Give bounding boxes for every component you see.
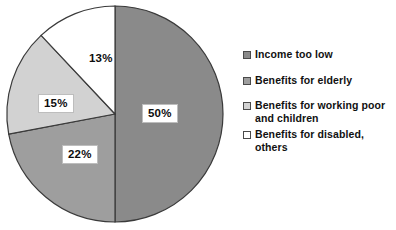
legend-item-label-line2: and children <box>255 112 319 124</box>
pie-svg <box>0 0 232 230</box>
legend-swatch-icon <box>243 77 251 85</box>
legend-item-label: Benefits for elderly <box>255 74 352 87</box>
pie-chart-figure: 50% 22% 15% 13% Income too low Benefits … <box>0 0 396 230</box>
legend-swatch-icon <box>243 51 251 59</box>
legend-swatch-icon <box>243 102 251 110</box>
pie-slice-label-benefits-elderly: 22% <box>62 145 98 164</box>
legend-item-label-line2: others <box>255 141 288 153</box>
pie-slice-label-benefits-working-poor: 15% <box>38 94 74 113</box>
pie-plot-area: 50% 22% 15% 13% <box>0 0 232 230</box>
legend-item-label-line1: Benefits for disabled, <box>255 128 364 140</box>
chart-legend: Income too low Benefits for elderly Bene… <box>243 48 393 157</box>
pie-slice-label-benefits-disabled: 13% <box>85 50 117 67</box>
legend-item-label: Benefits for disabled,others <box>255 128 364 153</box>
legend-item-benefits-disabled[interactable]: Benefits for disabled,others <box>243 128 393 153</box>
legend-swatch-icon <box>243 131 251 139</box>
pie-slice-label-income-too-low: 50% <box>142 104 178 123</box>
legend-item-benefits-elderly[interactable]: Benefits for elderly <box>243 74 393 87</box>
legend-item-label: Benefits for working poorand children <box>255 99 385 124</box>
legend-item-label-line1: Benefits for working poor <box>255 99 385 111</box>
legend-item-benefits-working-poor[interactable]: Benefits for working poorand children <box>243 99 393 124</box>
legend-item-label: Income too low <box>255 48 333 61</box>
legend-item-income-too-low[interactable]: Income too low <box>243 48 393 61</box>
